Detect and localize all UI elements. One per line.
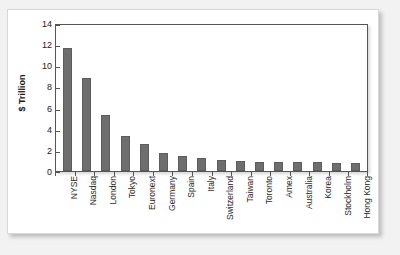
bar	[351, 163, 360, 171]
y-axis-tick-label: 6	[26, 104, 52, 114]
chart-card: $ Trillion 02468101214 NYSENasdaqLondonT…	[7, 9, 379, 234]
y-axis-tick-label: 12	[26, 40, 52, 50]
y-axis-tick-mark	[56, 67, 60, 68]
x-axis-label-cell: Tokyo	[114, 176, 134, 232]
y-axis-tick-label: 8	[26, 82, 52, 92]
x-axis-label-cell: London	[94, 176, 114, 232]
bar-cell	[288, 25, 307, 171]
bar-cell	[346, 25, 365, 171]
bar	[159, 153, 168, 171]
y-axis-tick-label: 4	[26, 125, 52, 135]
bar-series	[56, 25, 367, 171]
bar-cell	[173, 25, 192, 171]
y-axis-tick-mark	[56, 46, 60, 47]
x-axis-label-cell: Nasdaq	[75, 176, 95, 232]
bar	[274, 162, 283, 171]
bar	[101, 115, 110, 171]
bar	[82, 78, 91, 171]
bar	[217, 160, 226, 171]
bar	[178, 156, 187, 171]
y-axis-tick-mark	[56, 152, 60, 153]
plot-area	[55, 24, 368, 172]
x-axis-tick-labels: NYSENasdaqLondonTokyoEuronextGermanySpai…	[55, 176, 368, 232]
bar-cell	[154, 25, 173, 171]
y-axis-tick-label: 0	[26, 167, 52, 177]
bar-cell	[116, 25, 135, 171]
x-axis-label-cell: Italy	[192, 176, 212, 232]
bar-cell	[231, 25, 250, 171]
page-background: $ Trillion 02468101214 NYSENasdaqLondonT…	[0, 0, 400, 255]
y-axis-tick-mark	[56, 110, 60, 111]
bar	[63, 48, 72, 171]
x-axis-label-cell: Switzerland	[212, 176, 232, 232]
bar	[255, 162, 264, 172]
x-axis-label-cell: Germany	[153, 176, 173, 232]
bar-cell	[77, 25, 96, 171]
x-axis-label-cell: Hong Kong	[348, 176, 368, 232]
bar-cell	[58, 25, 77, 171]
x-axis-label-cell: Australia	[290, 176, 310, 232]
y-axis-tick-mark	[56, 25, 60, 26]
bar-cell	[135, 25, 154, 171]
bar-cell	[212, 25, 231, 171]
bar	[293, 162, 302, 171]
x-axis-tick-label: Hong Kong	[362, 176, 372, 219]
y-axis-tick-label: 14	[26, 19, 52, 29]
y-axis-tick-mark	[56, 88, 60, 89]
bar	[197, 158, 206, 171]
bar-cell	[327, 25, 346, 171]
x-axis-label-cell: Korea	[309, 176, 329, 232]
x-axis-label-cell: NYSE	[55, 176, 75, 232]
x-axis-label-cell: Euronext	[133, 176, 153, 232]
y-axis-tick-label: 2	[26, 146, 52, 156]
bar-chart: $ Trillion 02468101214 NYSENasdaqLondonT…	[8, 10, 380, 235]
x-axis-label-cell: Stockholm	[329, 176, 349, 232]
x-axis-label-cell: Amex	[270, 176, 290, 232]
x-axis-label-cell: Toronto	[251, 176, 271, 232]
bar	[313, 162, 322, 171]
x-axis-label-cell: Spain	[172, 176, 192, 232]
bar-cell	[250, 25, 269, 171]
bar	[121, 136, 130, 171]
y-axis-tick-label: 10	[26, 61, 52, 71]
bar	[140, 144, 149, 171]
bar-cell	[269, 25, 288, 171]
bar-cell	[96, 25, 115, 171]
x-axis-label-cell: Taiwan	[231, 176, 251, 232]
bar	[332, 163, 341, 171]
bar-cell	[307, 25, 326, 171]
y-axis-tick-labels: 02468101214	[26, 24, 52, 172]
y-axis-tick-mark	[56, 131, 60, 132]
bar	[236, 161, 245, 171]
bar-cell	[192, 25, 211, 171]
